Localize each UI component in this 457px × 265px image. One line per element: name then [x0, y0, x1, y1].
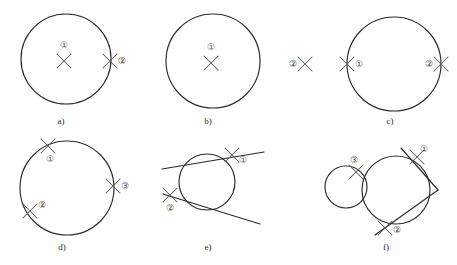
panel-d: ①②③d) [20, 139, 129, 252]
panel-c-mark-1-label: ① [355, 59, 363, 69]
panel-d-mark-3-label: ③ [121, 181, 129, 191]
panel-b-mark-1: ① [204, 42, 218, 70]
panel-e-mark-1-label: ① [239, 155, 247, 165]
panel-c-mark-2: ② [425, 57, 448, 71]
panel-b-mark-2: ② [289, 57, 312, 71]
panel-c-mark-2-label: ② [425, 59, 433, 69]
panel-a-caption: a) [58, 116, 65, 126]
panel-d-mark-2: ② [23, 200, 46, 218]
panel-c-mark-1: ① [340, 57, 363, 71]
panel-f-mark-3-label: ③ [350, 155, 358, 165]
panel-a-mark-1: ① [57, 40, 71, 68]
panel-f-mark-2-label: ② [393, 225, 401, 235]
panel-d-main-circle [20, 141, 114, 235]
panel-b-mark-2-label: ② [289, 59, 297, 69]
panel-f-mark-1-label: ① [420, 144, 428, 154]
panel-f-mark-3: ③ [349, 155, 363, 179]
panel-c-caption: c) [387, 116, 394, 126]
panel-f: ①②③f) [325, 144, 438, 252]
figure-canvas: ①②a)①②b)①②c)①②③d)①②e)①②③f) [0, 0, 457, 265]
panel-e-mark-2: ② [163, 188, 177, 213]
panel-b-mark-1-label: ① [207, 42, 215, 52]
panel-f-mark-2: ② [378, 221, 401, 235]
panel-a-mark-2-label: ② [118, 56, 126, 66]
panel-e-mark-2-label: ② [166, 203, 174, 213]
panel-d-mark-3: ③ [106, 179, 129, 193]
panel-a-mark-1-label: ① [60, 40, 68, 50]
panel-d-caption: d) [58, 242, 66, 252]
panel-e-caption: e) [205, 242, 212, 252]
panel-f-small-circle [325, 166, 367, 208]
panel-f-mark-1: ① [410, 144, 428, 164]
panel-d-mark-2-label: ② [38, 200, 46, 210]
panel-b: ①②b) [166, 14, 312, 126]
panel-b-caption: b) [204, 116, 212, 126]
panel-e: ①②e) [162, 148, 264, 252]
panel-c: ①②c) [340, 17, 448, 126]
panel-f-large-circle [362, 156, 430, 224]
panel-a: ①②a) [21, 14, 126, 126]
panel-e-lower-tangent-line [163, 194, 260, 224]
panel-a-mark-2: ② [103, 54, 126, 68]
panel-f-caption: f) [383, 242, 389, 252]
panel-d-mark-1-label: ① [46, 154, 54, 164]
